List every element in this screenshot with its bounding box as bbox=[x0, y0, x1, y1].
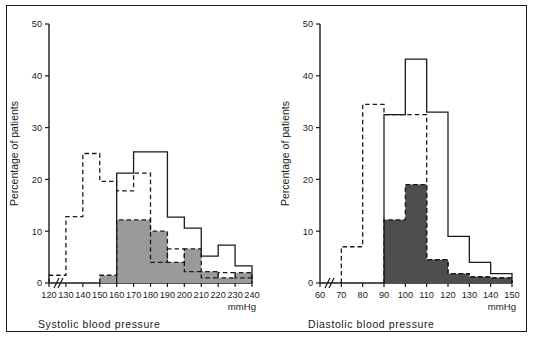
y-tick-label-10: 10 bbox=[32, 227, 42, 237]
x-tick-label-80: 80 bbox=[358, 290, 368, 300]
figure-root: 0102030405012013014015016017018019020021… bbox=[0, 0, 534, 339]
x-tick-label-210: 210 bbox=[194, 290, 209, 300]
chart-panel-diastolic: 0102030405060708090100110120130140150Per… bbox=[258, 0, 534, 339]
x-tick-label-100: 100 bbox=[398, 290, 413, 300]
x-tick-label-90: 90 bbox=[379, 290, 389, 300]
x-tick-label-60: 60 bbox=[315, 290, 325, 300]
dashed-outline-histogram bbox=[341, 104, 512, 283]
chart-panel-systolic: 0102030405012013014015016017018019020021… bbox=[0, 0, 272, 339]
x-tick-label-120: 120 bbox=[440, 290, 455, 300]
y-axis-title: Percentage of patients bbox=[8, 101, 20, 206]
x-tick-label-200: 200 bbox=[177, 290, 192, 300]
x-tick-label-150: 150 bbox=[92, 290, 107, 300]
x-tick-label-70: 70 bbox=[336, 290, 346, 300]
y-tick-label-40: 40 bbox=[32, 71, 42, 81]
y-tick-label-40: 40 bbox=[303, 71, 313, 81]
x-tick-label-140: 140 bbox=[483, 290, 498, 300]
x-tick-label-190: 190 bbox=[160, 290, 175, 300]
y-tick-label-30: 30 bbox=[303, 123, 313, 133]
y-tick-label-50: 50 bbox=[303, 19, 313, 29]
units-label: mmHg bbox=[488, 301, 516, 312]
x-axis-title: Systolic blood pressure bbox=[38, 318, 160, 330]
x-tick-label-110: 110 bbox=[419, 290, 434, 300]
x-tick-label-160: 160 bbox=[109, 290, 124, 300]
y-tick-label-50: 50 bbox=[32, 19, 42, 29]
y-tick-label-0: 0 bbox=[37, 278, 42, 288]
units-label: mmHg bbox=[228, 301, 256, 312]
y-tick-label-20: 20 bbox=[303, 175, 313, 185]
x-tick-label-170: 170 bbox=[126, 290, 141, 300]
x-tick-label-140: 140 bbox=[75, 290, 90, 300]
y-tick-label-10: 10 bbox=[303, 227, 313, 237]
diastolic-chart-svg: 0102030405060708090100110120130140150Per… bbox=[258, 0, 534, 339]
x-tick-label-150: 150 bbox=[504, 290, 519, 300]
x-tick-label-130: 130 bbox=[462, 290, 477, 300]
y-tick-label-20: 20 bbox=[32, 175, 42, 185]
y-axis-title: Percentage of patients bbox=[279, 101, 291, 206]
y-tick-label-30: 30 bbox=[32, 123, 42, 133]
x-tick-label-120: 120 bbox=[41, 290, 56, 300]
y-tick-label-0: 0 bbox=[308, 278, 313, 288]
x-tick-label-130: 130 bbox=[58, 290, 73, 300]
x-tick-label-180: 180 bbox=[143, 290, 158, 300]
x-tick-label-220: 220 bbox=[210, 290, 225, 300]
shaded-histogram-area bbox=[100, 220, 252, 283]
systolic-chart-svg: 0102030405012013014015016017018019020021… bbox=[0, 0, 272, 339]
x-tick-label-230: 230 bbox=[227, 290, 242, 300]
x-axis-title: Diastolic blood pressure bbox=[308, 318, 434, 330]
